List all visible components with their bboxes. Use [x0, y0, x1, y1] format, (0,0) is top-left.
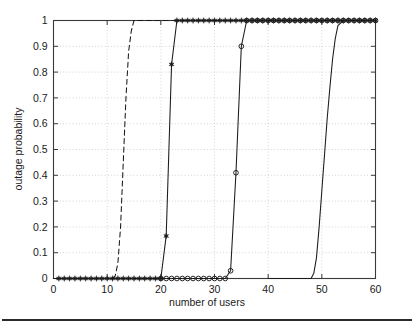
y-tick-label: 0.3: [33, 195, 48, 207]
x-tick-label: 60: [370, 283, 382, 295]
y-tick-label: 0.5: [33, 143, 48, 155]
x-tick-label: 30: [209, 283, 221, 295]
chart-canvas: 00.10.20.30.40.50.60.70.80.9101020304050…: [0, 0, 414, 329]
y-tick-label: 0.6: [33, 117, 48, 129]
page-bottom-rule: [2, 319, 412, 321]
y-tick-label: 0.8: [33, 66, 48, 78]
y-tick-label: 1: [42, 14, 48, 26]
x-axis-title: number of users: [169, 296, 245, 308]
y-axis-title: outage probability: [12, 107, 24, 191]
outage-probability-figure: 00.10.20.30.40.50.60.70.80.9101020304050…: [0, 0, 414, 329]
x-tick-label: 10: [101, 283, 113, 295]
y-tick-label: 0: [42, 272, 48, 284]
y-tick-label: 0.9: [33, 40, 48, 52]
y-tick-label: 0.4: [33, 169, 48, 181]
x-tick-label: 50: [316, 283, 328, 295]
x-tick-label: 0: [51, 283, 57, 295]
y-tick-label: 0.1: [33, 246, 48, 258]
x-tick-label: 40: [262, 283, 274, 295]
y-tick-label: 0.7: [33, 92, 48, 104]
y-tick-label: 0.2: [33, 221, 48, 233]
x-tick-label: 20: [155, 283, 167, 295]
